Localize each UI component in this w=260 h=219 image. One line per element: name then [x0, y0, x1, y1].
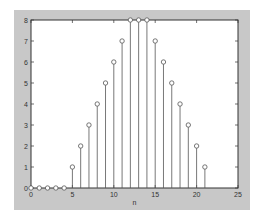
x-tick-label: 25: [234, 191, 242, 198]
y-tick-label: 4: [24, 101, 28, 108]
y-tick-label: 0: [24, 185, 28, 192]
stem-marker: [170, 81, 174, 85]
stem-marker: [95, 102, 99, 106]
axes-area: [31, 20, 238, 188]
x-tick-label: 0: [29, 191, 33, 198]
y-tick-label: 3: [24, 122, 28, 129]
stem-marker: [128, 18, 132, 22]
stem-marker: [87, 123, 91, 127]
stem-marker: [120, 39, 124, 43]
stem-marker: [78, 144, 82, 148]
stem-marker: [112, 60, 116, 64]
stem-marker: [37, 186, 41, 190]
stem-marker: [70, 165, 74, 169]
stem-marker: [145, 18, 149, 22]
y-tick-label: 5: [24, 80, 28, 87]
stem-marker: [103, 81, 107, 85]
stem-plot: 0510152025012345678n: [0, 0, 260, 219]
stem-marker: [178, 102, 182, 106]
y-tick-label: 8: [24, 17, 28, 24]
stem-marker: [45, 186, 49, 190]
stem-marker: [29, 186, 33, 190]
x-tick-label: 15: [151, 191, 159, 198]
stem-marker: [203, 165, 207, 169]
stem-marker: [161, 60, 165, 64]
y-tick-label: 7: [24, 38, 28, 45]
x-axis-label: n: [133, 199, 137, 206]
stem-marker: [186, 123, 190, 127]
y-tick-label: 1: [24, 164, 28, 171]
y-tick-label: 2: [24, 143, 28, 150]
x-tick-label: 5: [70, 191, 74, 198]
y-tick-label: 6: [24, 59, 28, 66]
x-tick-label: 20: [193, 191, 201, 198]
stem-marker: [153, 39, 157, 43]
stem-marker: [62, 186, 66, 190]
stem-marker: [54, 186, 58, 190]
stem-marker: [194, 144, 198, 148]
stem-marker: [136, 18, 140, 22]
x-tick-label: 10: [110, 191, 118, 198]
